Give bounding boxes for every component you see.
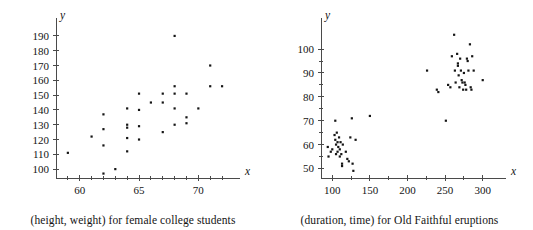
x-tick-label: 60 (74, 184, 86, 195)
data-point (458, 86, 460, 88)
data-point (348, 160, 350, 162)
scatter-plot-old-faithful: 1001502002503005060708090100xy (266, 0, 533, 195)
data-point (126, 137, 128, 139)
data-point (126, 127, 128, 129)
y-tick-label: 150 (33, 89, 50, 101)
data-point (335, 143, 337, 145)
data-point (209, 85, 211, 87)
data-point (331, 148, 333, 150)
y-tick-label: 140 (33, 104, 50, 116)
data-point (471, 55, 473, 57)
x-tick-label: 100 (324, 184, 341, 195)
y-tick-label: 60 (303, 139, 315, 151)
data-point (458, 74, 460, 76)
data-point (221, 85, 223, 87)
data-point (126, 107, 128, 109)
data-point (462, 89, 464, 91)
data-point (162, 101, 164, 103)
data-point (340, 153, 342, 155)
data-point (467, 60, 469, 62)
data-point (174, 107, 176, 109)
x-tick-label: 300 (474, 184, 491, 195)
data-point (138, 93, 140, 95)
caption-height-weight: (height, weight) for female college stud… (0, 214, 266, 226)
data-point (437, 91, 439, 93)
y-tick-label: 50 (303, 162, 315, 174)
data-point (339, 155, 341, 157)
data-point (426, 69, 428, 71)
y-tick-label: 190 (33, 30, 50, 42)
data-point (469, 43, 471, 45)
data-point (174, 93, 176, 95)
data-point (341, 165, 343, 167)
data-point (464, 81, 466, 83)
data-point (330, 151, 332, 153)
data-point (334, 120, 336, 122)
data-point (335, 153, 337, 155)
x-tick-label: 250 (437, 184, 454, 195)
data-point (461, 79, 463, 81)
data-point (470, 86, 472, 88)
scatterplot-figure: 606570100110120130140150160170180190xy (… (0, 0, 533, 230)
data-point (114, 168, 116, 170)
data-point (150, 101, 152, 103)
data-point (460, 69, 462, 71)
data-point (470, 89, 472, 91)
y-tick-label: 100 (33, 163, 50, 175)
data-point (447, 84, 449, 86)
y-tick-label: 90 (303, 67, 315, 79)
y-tick-label: 160 (33, 74, 50, 86)
data-point (457, 65, 459, 67)
data-point (162, 131, 164, 133)
data-point (454, 69, 456, 71)
data-point (342, 143, 344, 145)
data-point (102, 128, 104, 130)
y-tick-label: 130 (33, 119, 50, 131)
chart-panel-height-weight: 606570100110120130140150160170180190xy (… (0, 0, 266, 230)
caption-old-faithful: (duration, time) for Old Faithful erupti… (266, 214, 533, 226)
data-point (185, 93, 187, 95)
x-tick-label: 150 (362, 184, 379, 195)
data-point (102, 113, 104, 115)
data-point (465, 89, 467, 91)
data-point (138, 109, 140, 111)
data-point (185, 116, 187, 118)
y-tick-label: 80 (303, 91, 315, 103)
data-point (455, 81, 457, 83)
data-point (467, 69, 469, 71)
data-point (327, 155, 329, 157)
data-point (346, 158, 348, 160)
y-tick-label: 180 (33, 45, 50, 57)
data-point (345, 151, 347, 153)
data-point (334, 139, 336, 141)
data-point (336, 151, 338, 153)
data-point (456, 53, 458, 55)
data-point (174, 35, 176, 37)
x-tick-label: 65 (134, 184, 146, 195)
data-point (449, 86, 451, 88)
data-point (482, 79, 484, 81)
x-axis-label: x (510, 165, 517, 177)
data-point (102, 144, 104, 146)
data-point (90, 135, 92, 137)
data-point (126, 124, 128, 126)
data-point (197, 107, 199, 109)
data-point (436, 89, 438, 91)
data-point (174, 85, 176, 87)
scatter-plot-height-weight: 606570100110120130140150160170180190xy (0, 0, 266, 195)
data-point (333, 134, 335, 136)
y-tick-label: 70 (303, 115, 315, 127)
data-point (339, 141, 341, 143)
y-tick-label: 110 (33, 148, 50, 160)
data-point (457, 62, 459, 64)
data-point (185, 122, 187, 124)
x-axis-label: x (244, 165, 251, 177)
data-point (369, 115, 371, 117)
data-point (453, 34, 455, 36)
data-point (138, 125, 140, 127)
data-point (473, 69, 475, 71)
data-point (339, 148, 341, 150)
y-tick-label: 170 (33, 60, 50, 72)
data-point (349, 136, 351, 138)
data-point (355, 139, 357, 141)
